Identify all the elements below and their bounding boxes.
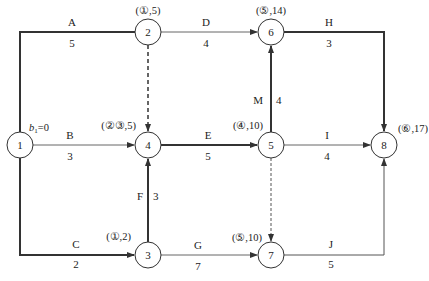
node-4-number: 4	[145, 139, 151, 151]
network-diagram-svg: A 5 D 4 H 3 B 3 E 5 I 4 M 4	[0, 0, 429, 281]
activity-F: F 3	[137, 159, 159, 242]
activity-C-duration: 2	[73, 258, 79, 270]
activity-C: C 2	[20, 158, 134, 270]
activity-I-duration: 4	[324, 150, 330, 162]
activity-I: I 4	[284, 129, 370, 162]
node-7-annotation: (⑤,10)	[232, 232, 263, 244]
activity-G: G 7	[161, 239, 257, 272]
activity-G-duration: 7	[195, 260, 201, 272]
node-1-annotation: b1=0	[29, 122, 49, 135]
activity-D-label: D	[202, 16, 210, 28]
activity-B-duration: 3	[67, 150, 73, 162]
node-1: 1	[7, 132, 33, 158]
node-2-number: 2	[145, 26, 151, 38]
node-3-number: 3	[145, 249, 151, 261]
node-8-annotation: (⑥,17)	[398, 123, 429, 135]
node-8-number: 8	[381, 139, 387, 151]
activity-B-label: B	[66, 129, 73, 141]
activity-I-label: I	[325, 129, 329, 141]
activity-D-duration: 4	[203, 37, 209, 49]
node-4-annotation: (②③,5)	[101, 120, 136, 132]
activity-A-label: A	[68, 16, 76, 28]
network-diagram: A 5 D 4 H 3 B 3 E 5 I 4 M 4	[0, 0, 429, 281]
activity-E-duration: 5	[205, 150, 211, 162]
node-1-annotation-rest: =0	[38, 122, 49, 133]
activity-F-label: F	[137, 190, 143, 202]
node-7: 7	[258, 242, 284, 268]
activity-D: D 4	[161, 16, 257, 49]
node-6-annotation: (⑤,14)	[256, 5, 287, 17]
node-5-number: 5	[268, 139, 274, 151]
node-7-number: 7	[268, 249, 274, 261]
node-3-annotation: (①,2)	[106, 231, 131, 243]
activity-C-label: C	[72, 238, 79, 250]
activity-H: H 3	[284, 16, 384, 131]
activity-H-duration: 3	[326, 37, 332, 49]
activity-H-label: H	[325, 16, 333, 28]
node-4: 4	[135, 132, 161, 158]
node-1-number: 1	[17, 139, 23, 151]
activity-E: E 5	[161, 129, 257, 162]
node-5: 5	[258, 132, 284, 158]
activity-J-label: J	[329, 238, 334, 250]
activity-M-label: M	[253, 94, 263, 106]
activity-E-label: E	[205, 129, 212, 141]
activity-A-duration: 5	[69, 37, 75, 49]
node-6-number: 6	[268, 26, 274, 38]
activity-J: J 5	[284, 159, 384, 270]
node-5-annotation: (④,10)	[233, 120, 264, 132]
activity-B: B 3	[33, 129, 134, 162]
activity-G-label: G	[194, 239, 202, 251]
activity-F-duration: 3	[153, 190, 159, 202]
activity-M-duration: 4	[276, 94, 282, 106]
activity-A: A 5	[20, 16, 135, 132]
activity-J-duration: 5	[328, 258, 334, 270]
node-2: 2	[135, 19, 161, 45]
node-8: 8	[371, 132, 397, 158]
node-6: 6	[258, 19, 284, 45]
node-2-annotation: (①,5)	[136, 5, 161, 17]
node-3: 3	[135, 242, 161, 268]
